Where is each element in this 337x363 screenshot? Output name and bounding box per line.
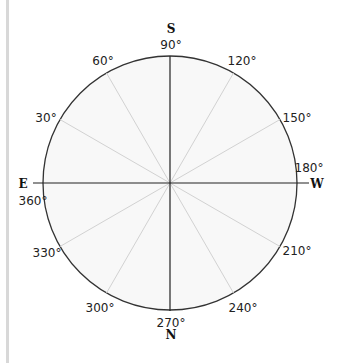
label-30: 30° [35, 111, 56, 125]
label-150: 150° [283, 111, 312, 125]
compass-diagram: S N E W 90° 60° 120° 30° 150° 180° 360° … [0, 0, 337, 363]
label-270: 270° [157, 316, 186, 330]
label-90: 90° [160, 38, 181, 52]
direction-west: W [309, 177, 324, 191]
label-60: 60° [92, 54, 113, 68]
label-300: 300° [86, 301, 115, 315]
direction-east: E [18, 177, 27, 191]
label-240: 240° [229, 301, 258, 315]
direction-south: S [167, 22, 176, 36]
label-120: 120° [228, 54, 257, 68]
label-360: 360° [19, 194, 48, 208]
label-180: 180° [295, 161, 324, 175]
label-210: 210° [283, 244, 312, 258]
direction-north: N [166, 328, 177, 342]
label-330: 330° [33, 246, 62, 260]
